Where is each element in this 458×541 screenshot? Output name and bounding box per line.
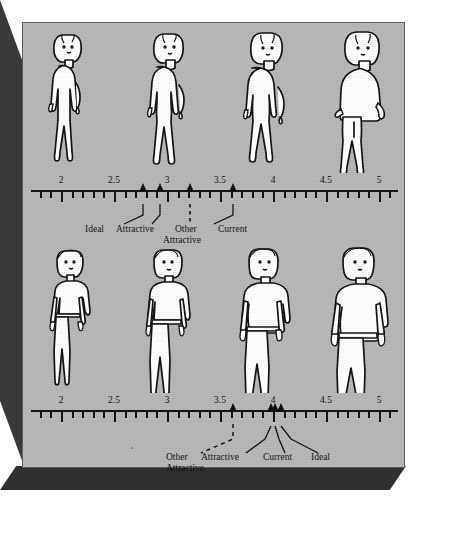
callout-other-label: Other — [175, 224, 197, 234]
male-figure-2 — [137, 241, 211, 397]
callout-ideal-label: Ideal — [311, 452, 330, 462]
female-figure-1 — [39, 25, 107, 177]
callout-other-label: Other — [166, 452, 188, 462]
body-image-figure: 2 2.5 3 3.5 4 4.5 5 — [0, 0, 458, 541]
callout-other-label-line2: Attractive — [166, 463, 204, 473]
male-figure-4 — [323, 241, 409, 397]
chart-panel: 2 2.5 3 3.5 4 4.5 5 — [22, 22, 405, 468]
male-figure-1 — [41, 241, 109, 397]
callout-current-label: Current — [263, 452, 292, 462]
callout-attractive-label: Attractive — [116, 224, 154, 234]
callout-attractive-label: Attractive — [201, 452, 239, 462]
male-scale: 2 2.5 3 3.5 4 4.5 5 — [23, 399, 406, 465]
callout-ideal-label: Ideal — [85, 224, 104, 234]
female-callout-lines — [23, 179, 406, 239]
female-scale: 2 2.5 3 3.5 4 4.5 5 — [23, 179, 406, 239]
male-figure-3 — [231, 241, 311, 397]
female-figure-4 — [328, 25, 410, 177]
callout-current-label: Current — [218, 224, 247, 234]
slab-right-edge — [0, 0, 24, 466]
female-figure-2 — [139, 25, 211, 177]
male-figure-row — [23, 245, 406, 397]
female-figure-row — [23, 29, 406, 177]
female-figure-3 — [236, 25, 312, 177]
